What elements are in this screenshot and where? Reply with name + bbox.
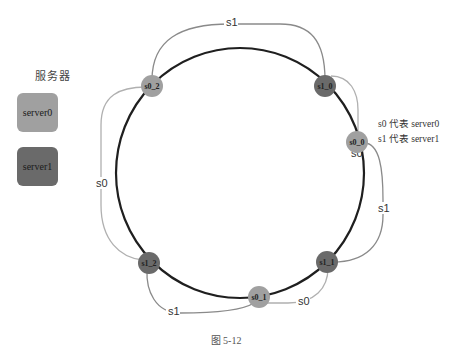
node-s1_1: s1_1 — [316, 251, 338, 273]
arc-label-top: s1 — [226, 16, 238, 28]
arc-label-bottom: s1 — [168, 305, 180, 317]
svg-text:s0_2: s0_2 — [144, 82, 159, 91]
hash-ring-diagram: s1 s0 s1 s0 s1 s0 s0_2 s1_0 s0_0 s1_1 s0… — [0, 0, 452, 352]
node-s0_0: s0_0 — [346, 131, 368, 153]
arc-label-lower-right: s0 — [298, 295, 310, 307]
svg-text:s0_1: s0_1 — [251, 293, 266, 302]
node-s1_2: s1_2 — [138, 252, 160, 274]
node-s0_2: s0_2 — [141, 75, 163, 97]
svg-text:s0_0: s0_0 — [349, 138, 364, 147]
arc-label-left: s0 — [96, 177, 108, 189]
svg-text:s1_0: s1_0 — [317, 82, 332, 91]
arc-s0_0-s1_1 — [333, 143, 383, 262]
figure-caption: 图 5-12 — [0, 332, 452, 347]
arc-s1_2-s0_2 — [101, 87, 146, 260]
node-s0_1: s0_1 — [248, 286, 270, 308]
arc-label-right: s1 — [378, 202, 390, 214]
svg-text:s1_1: s1_1 — [319, 258, 334, 267]
arc-s0_2-s1_0 — [152, 24, 325, 80]
svg-text:s1_2: s1_2 — [141, 259, 156, 268]
node-s1_0: s1_0 — [314, 75, 336, 97]
